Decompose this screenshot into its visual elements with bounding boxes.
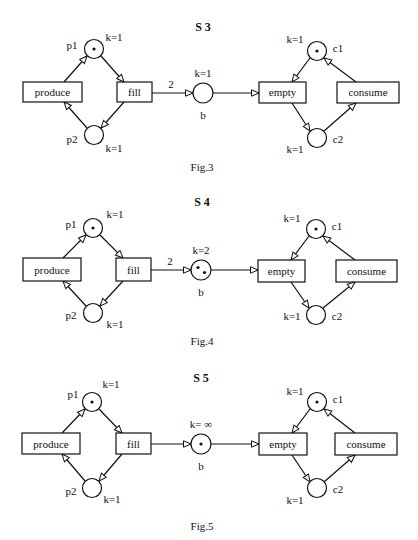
transition-label: fill [127, 438, 140, 450]
arc-p2-produce [62, 454, 85, 481]
capacity-label: k=2 [192, 244, 209, 256]
place-p2 [85, 126, 104, 145]
place-label: b [200, 109, 206, 121]
token [315, 49, 318, 52]
place-p2 [83, 479, 102, 498]
token [91, 226, 94, 229]
arc-fill-p2 [100, 281, 123, 306]
capacity-label: k=1 [283, 212, 300, 224]
arc-empty-c2 [292, 455, 310, 482]
arc-produce-p1 [63, 235, 86, 258]
transition-label: consume [346, 438, 385, 450]
place-label: b [198, 286, 204, 298]
token [315, 400, 318, 403]
token [92, 47, 95, 50]
arc-consume-c1 [324, 409, 355, 433]
capacity-label: k=1 [194, 67, 211, 79]
transition-label: empty [269, 438, 297, 450]
figure-title: S 4 [194, 195, 210, 209]
place-label: p2 [66, 485, 77, 497]
capacity-label: k=1 [286, 494, 303, 506]
transition-label: produce [33, 438, 69, 450]
arc-weight-label: 2 [168, 78, 174, 90]
capacity-label: k=1 [105, 31, 122, 43]
arc-produce-p1 [64, 56, 87, 82]
figure-title: S 3 [195, 20, 211, 34]
transition-label: empty [268, 265, 296, 277]
transition-label: produce [35, 86, 71, 98]
place-label: p2 [67, 133, 78, 145]
place-c2 [308, 129, 327, 148]
token [196, 266, 199, 269]
place-label: c1 [333, 393, 343, 405]
transition-label: consume [347, 265, 386, 277]
place-b [193, 83, 213, 103]
place-c2 [308, 479, 327, 498]
capacity-label: k=1 [106, 208, 123, 220]
capacity-label: k=1 [286, 33, 303, 45]
token [199, 442, 202, 445]
arc-fill-p2 [99, 454, 122, 481]
transition-label: fill [128, 86, 141, 98]
place-label: c2 [333, 133, 343, 145]
figure-s4: S 4 produce fill empty consume p1 k=1 p2… [23, 195, 397, 347]
arc-consume-c1 [323, 236, 355, 260]
figure-caption: Fig.3 [191, 161, 214, 173]
token [90, 400, 93, 403]
capacity-label: k=1 [286, 385, 303, 397]
arc-c1-empty [291, 236, 309, 260]
petri-net-figures: S 3 produce fill empty consume p1 k=1 p2… [0, 0, 418, 540]
place-label: c1 [332, 220, 342, 232]
capacity-label: k=1 [286, 143, 303, 155]
place-c2 [307, 306, 326, 325]
place-label: c2 [332, 310, 342, 322]
arc-empty-c2 [291, 282, 309, 308]
figure-caption: Fig.4 [191, 335, 214, 347]
capacity-label: k=1 [283, 310, 300, 322]
arc-p1-fill [99, 409, 122, 433]
capacity-label: k=1 [106, 318, 123, 330]
place-label: c2 [333, 483, 343, 495]
token [203, 271, 206, 274]
arc-weight-label: 2 [167, 255, 173, 267]
capacity-label: k=1 [103, 493, 120, 505]
arc-produce-p1 [62, 409, 85, 433]
place-label: b [198, 460, 204, 472]
arc-c2-consume [323, 282, 355, 308]
arc-c1-empty [292, 409, 310, 433]
figure-caption: Fig.5 [191, 520, 214, 532]
place-label: p1 [68, 388, 79, 400]
transition-label: fill [127, 264, 140, 276]
place-label: p2 [66, 309, 77, 321]
arc-p1-fill [100, 235, 123, 258]
arc-fill-p2 [101, 102, 124, 128]
place-b [191, 260, 211, 280]
capacity-label: k=1 [102, 378, 119, 390]
arc-p2-produce [64, 102, 87, 128]
figure-s3: S 3 produce fill empty consume p1 k=1 p2… [23, 20, 399, 173]
arc-c2-consume [324, 103, 356, 131]
arc-consume-c1 [324, 58, 356, 82]
place-p2 [84, 304, 103, 323]
capacity-label: k=1 [105, 142, 122, 154]
place-label: c1 [333, 42, 343, 54]
place-label: p1 [66, 218, 77, 230]
token [314, 227, 317, 230]
arc-c1-empty [292, 58, 310, 82]
arc-c2-consume [324, 455, 355, 482]
figure-title: S 5 [193, 371, 209, 385]
transition-label: produce [34, 264, 70, 276]
transition-label: empty [269, 86, 297, 98]
arc-empty-c2 [292, 103, 310, 131]
figure-s5: S 5 produce fill empty consume p1 k=1 p2… [22, 371, 397, 532]
arc-p1-fill [101, 56, 124, 82]
arc-p2-produce [63, 281, 86, 306]
transition-label: consume [348, 86, 387, 98]
place-label: p1 [67, 39, 78, 51]
capacity-label: k= ∞ [190, 418, 212, 430]
